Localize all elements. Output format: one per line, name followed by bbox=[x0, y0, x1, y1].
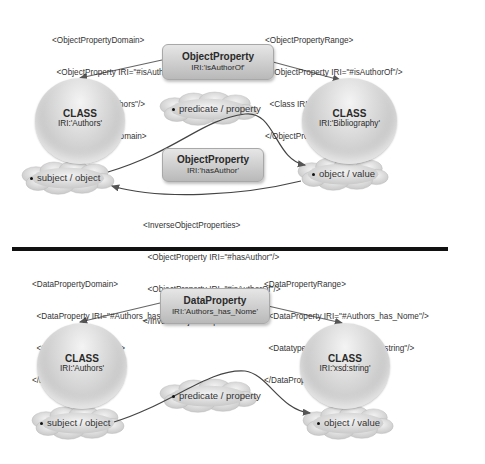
class-bibliography-sphere: CLASS IRI:'Bibliography' bbox=[302, 78, 397, 164]
cloud-label-predicate-top: predicate / property bbox=[172, 103, 261, 114]
class-iri: IRI:'Authors' bbox=[37, 364, 127, 373]
cloud-text: object / value bbox=[324, 417, 380, 428]
cloud-text: subject / object bbox=[47, 417, 110, 428]
bullet-icon bbox=[312, 173, 315, 176]
object-property-isauthorof-box: ObjectProperty IRI:'isAuthorOf' bbox=[162, 44, 274, 80]
property-iri: IRI:'Authors_has_Nome' bbox=[161, 307, 269, 316]
bullet-icon bbox=[172, 395, 175, 398]
class-title: CLASS bbox=[35, 108, 125, 119]
cloud-text: subject / object bbox=[37, 172, 100, 183]
cloud-text: predicate / property bbox=[179, 103, 261, 114]
class-title: CLASS bbox=[300, 353, 390, 364]
xml-line: <ObjectProperty IRI="#isAuthorOf"/> bbox=[265, 68, 403, 79]
property-title: DataProperty bbox=[161, 295, 269, 306]
cloud-text: predicate / property bbox=[179, 390, 261, 401]
cloud-label-object-bottom: object / value bbox=[317, 417, 380, 428]
arrow-inverse-top bbox=[112, 181, 301, 195]
cloud-label-object-top: object / value bbox=[312, 168, 375, 179]
bullet-icon bbox=[30, 177, 33, 180]
object-property-hasauthor-box: ObjectProperty IRI:'hasAuthor' bbox=[162, 148, 264, 182]
cloud-text: object / value bbox=[319, 168, 375, 179]
property-iri: IRI:'isAuthorOf' bbox=[163, 63, 273, 72]
bullet-icon bbox=[172, 108, 175, 111]
xml-line: <ObjectPropertyRange> bbox=[265, 36, 403, 47]
property-iri: IRI:'hasAuthor' bbox=[163, 166, 263, 175]
cloud-label-subject-top: subject / object bbox=[30, 172, 100, 183]
data-property-authors-has-nome-box: DataProperty IRI:'Authors_has_Nome' bbox=[160, 288, 270, 324]
class-iri: IRI:'Authors' bbox=[35, 119, 125, 128]
class-authors-sphere-bottom: CLASS IRI:'Authors' bbox=[37, 323, 127, 409]
class-title: CLASS bbox=[37, 353, 127, 364]
cloud-label-predicate-bottom: predicate / property bbox=[172, 390, 261, 401]
section-divider bbox=[12, 247, 448, 251]
class-iri: IRI:'Bibliography' bbox=[302, 119, 397, 128]
cloud-label-subject-bottom: subject / object bbox=[40, 417, 110, 428]
property-title: ObjectProperty bbox=[163, 154, 263, 165]
xml-line: <DataProperty IRI="#Authors_has_Nome"/> bbox=[264, 312, 429, 323]
xml-line: <InverseObjectProperties> bbox=[143, 221, 281, 232]
class-title: CLASS bbox=[302, 108, 397, 119]
class-iri: IRI:'xsd:string' bbox=[300, 364, 390, 373]
bullet-icon bbox=[317, 422, 320, 425]
property-title: ObjectProperty bbox=[163, 51, 273, 62]
bullet-icon bbox=[40, 422, 43, 425]
class-xsd-string-sphere: CLASS IRI:'xsd:string' bbox=[300, 323, 390, 409]
class-authors-sphere-top: CLASS IRI:'Authors' bbox=[35, 78, 125, 164]
xml-line: <DataPropertyRange> bbox=[264, 280, 429, 291]
